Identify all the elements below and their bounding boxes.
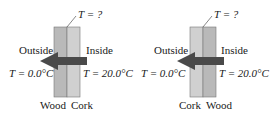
outside-temp: T = 0.0°C <box>9 67 53 79</box>
unknown-temp-label: T = ? <box>214 8 238 20</box>
layer-label-right: Cork <box>71 99 93 111</box>
outside-temp: T = 0.0°C <box>141 67 185 79</box>
layer-label-left: Cork <box>179 99 201 111</box>
inside-label: Inside <box>86 44 113 56</box>
interface-pointer-line <box>203 16 212 27</box>
inside-temp: T = 20.0°C <box>83 67 133 79</box>
diagram-cork-wood: T = ? Outside Inside T = 0.0°C T = 20.0°… <box>139 0 278 119</box>
layer-label-right: Wood <box>206 99 232 111</box>
inside-label: Inside <box>221 44 248 56</box>
unknown-temp-label: T = ? <box>78 8 102 20</box>
interface-pointer-line <box>67 16 76 27</box>
outside-label: Outside <box>154 44 188 56</box>
outside-label: Outside <box>19 44 53 56</box>
layer-label-left: Wood <box>40 99 66 111</box>
inside-temp: T = 20.0°C <box>219 67 269 79</box>
diagram-wood-cork: T = ? Outside Inside T = 0.0°C T = 20.0°… <box>0 0 139 119</box>
slab-graphic <box>0 0 139 119</box>
